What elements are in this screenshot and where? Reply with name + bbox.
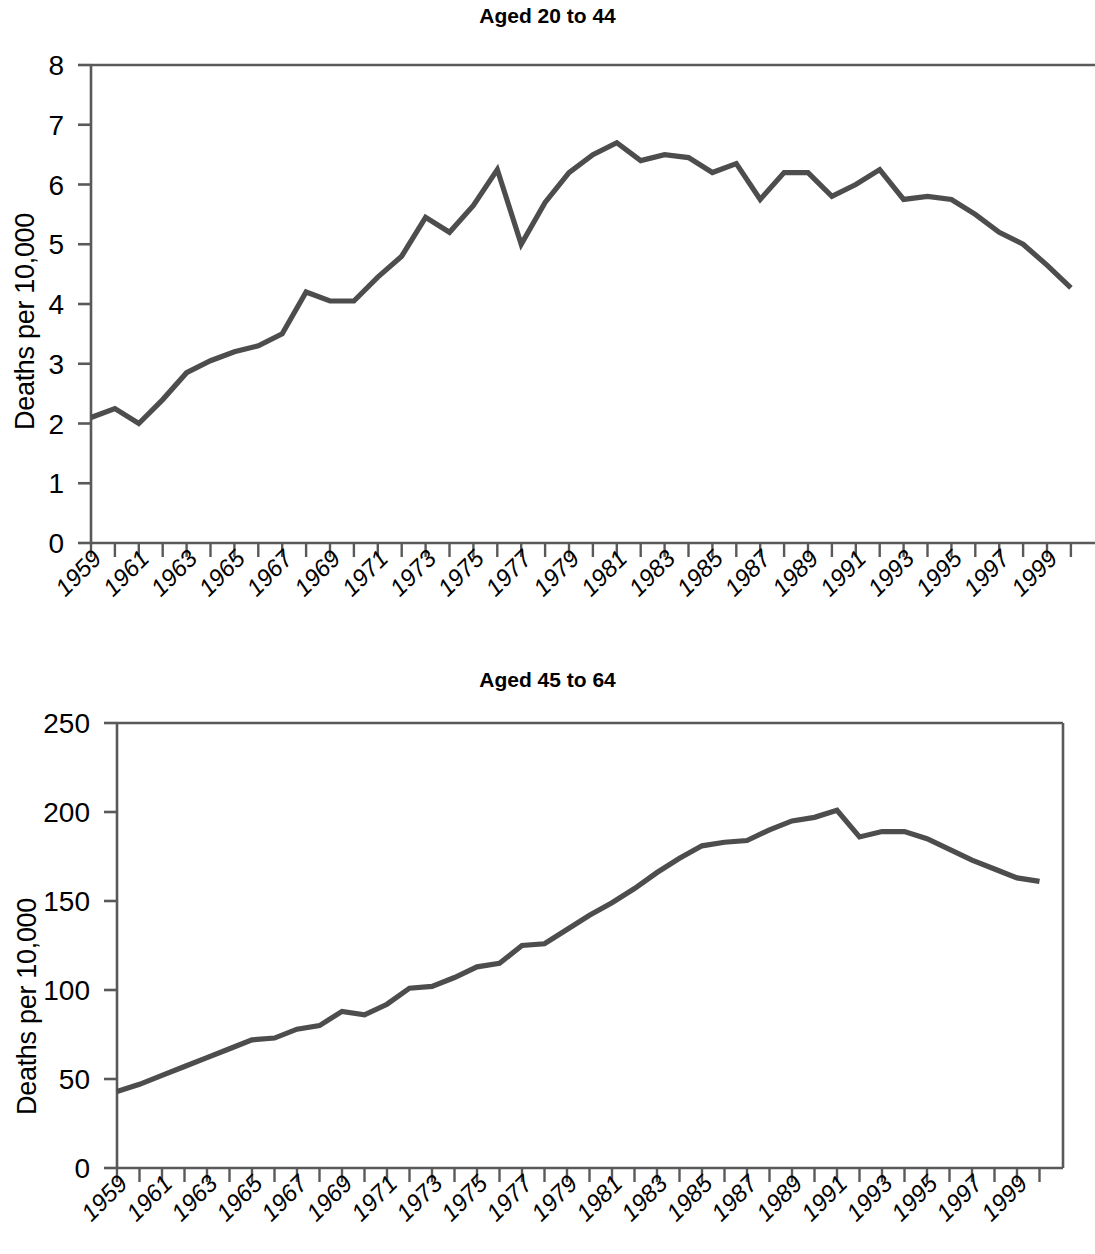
x-tick-label: 1995 [910, 544, 967, 601]
y-tick-label: 100 [43, 975, 90, 1006]
x-tick-label: 1997 [931, 1168, 989, 1226]
figure-page: Aged 20 to 44 Deaths per 10,000 01234567… [0, 0, 1095, 1254]
x-tick-label: 1975 [436, 1169, 493, 1226]
y-tick-label: 2 [48, 409, 64, 440]
y-tick-label: 4 [48, 289, 64, 320]
x-tick-label: 1993 [841, 1169, 898, 1226]
y-tick-label: 5 [48, 229, 64, 260]
x-tick-label: 1977 [480, 543, 538, 601]
x-tick-label: 1987 [719, 543, 777, 601]
x-tick-label: 1997 [958, 543, 1016, 601]
y-tick-label: 3 [48, 349, 64, 380]
x-tick-label: 1979 [526, 1169, 583, 1226]
x-tick-label: 1991 [814, 544, 871, 601]
x-tick-label: 1975 [432, 544, 489, 601]
x-tick-label: 1971 [346, 1169, 403, 1226]
x-tick-label: 1967 [256, 1168, 314, 1226]
y-tick-label: 200 [43, 797, 90, 828]
chart-panel-bottom: Aged 45 to 64 05010015020025019591961196… [0, 650, 1095, 1254]
data-line-top [91, 143, 1071, 424]
y-tick-label: 6 [48, 170, 64, 201]
x-tick-label: 1971 [336, 544, 393, 601]
y-tick-label: 250 [43, 708, 90, 739]
y-tick-label: 150 [43, 886, 90, 917]
plot-area-bottom: 0501001502002501959196119631965196719691… [0, 650, 1095, 1254]
x-tick-label: 1985 [671, 544, 728, 601]
x-tick-label: 1963 [166, 1169, 223, 1226]
x-tick-label: 1989 [767, 544, 824, 601]
x-tick-label: 1977 [481, 1168, 539, 1226]
x-tick-label: 1973 [391, 1169, 448, 1226]
y-axis-label-bottom: Deaths per 10,000 [12, 898, 43, 1115]
x-tick-label: 1963 [145, 544, 202, 601]
y-tick-label: 0 [74, 1153, 90, 1184]
x-tick-label: 1983 [623, 544, 680, 601]
y-tick-label: 8 [48, 50, 64, 81]
x-tick-label: 1985 [661, 1169, 718, 1226]
x-tick-label: 1965 [211, 1169, 268, 1226]
x-tick-label: 1969 [301, 1169, 358, 1226]
x-tick-label: 1987 [706, 1168, 764, 1226]
x-tick-label: 1999 [1006, 544, 1063, 601]
x-tick-label: 1995 [886, 1169, 943, 1226]
x-tick-label: 1961 [97, 544, 154, 601]
x-tick-label: 1993 [862, 544, 919, 601]
data-line-bottom [117, 810, 1040, 1091]
x-tick-label: 1979 [528, 544, 585, 601]
x-tick-label: 1973 [384, 544, 441, 601]
x-tick-label: 1965 [193, 544, 250, 601]
y-tick-label: 7 [48, 110, 64, 141]
chart-panel-top: Aged 20 to 44 Deaths per 10,000 01234567… [0, 0, 1095, 650]
x-tick-label: 1961 [121, 1169, 178, 1226]
y-tick-label: 1 [48, 468, 64, 499]
x-tick-label: 1981 [571, 1169, 628, 1226]
x-tick-label: 1981 [575, 544, 632, 601]
x-tick-label: 1991 [796, 1169, 853, 1226]
y-tick-label: 0 [48, 528, 64, 559]
x-tick-label: 1967 [241, 543, 299, 601]
y-tick-label: 50 [59, 1064, 90, 1095]
x-tick-label: 1969 [289, 544, 346, 601]
x-tick-label: 1983 [616, 1169, 673, 1226]
plot-area-top: 0123456781959196119631965196719691971197… [0, 0, 1095, 650]
x-tick-label: 1999 [976, 1169, 1033, 1226]
x-tick-label: 1989 [751, 1169, 808, 1226]
